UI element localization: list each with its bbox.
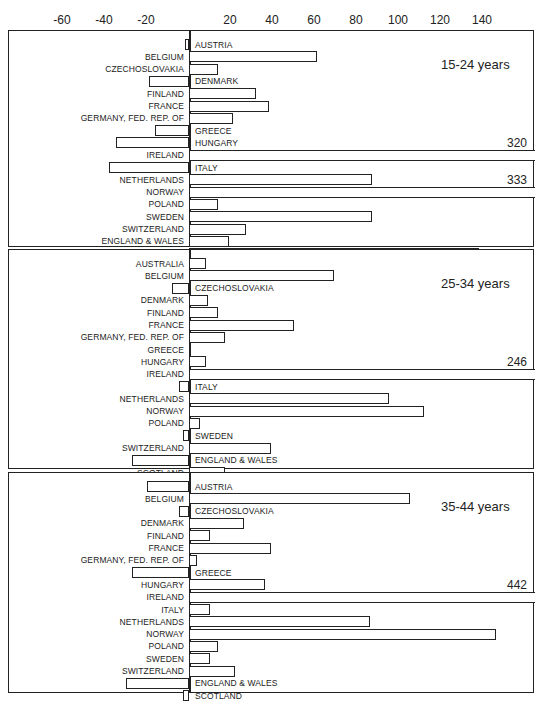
bar	[189, 369, 535, 380]
category-label: FINLAND	[147, 88, 184, 100]
x-tick-label: -20	[137, 13, 154, 27]
bar	[189, 211, 372, 222]
bar	[179, 381, 190, 392]
overflow-value-label: 333	[507, 173, 527, 187]
category-label: NORWAY	[146, 628, 184, 640]
bar	[189, 88, 256, 99]
bar	[179, 506, 190, 517]
category-label: CZECHOSLOVAKIA	[195, 505, 274, 517]
category-label: IRELAND	[146, 591, 184, 603]
category-label: AUSTRIA	[195, 481, 233, 493]
x-tick-label: 140	[472, 13, 492, 27]
panel-title: 15-24 years	[441, 57, 510, 72]
category-label: SWITZERLAND	[122, 442, 184, 454]
bar	[189, 604, 210, 615]
category-label: IRELAND	[146, 149, 184, 161]
bar	[189, 393, 389, 404]
bar	[116, 137, 190, 148]
bar	[147, 481, 189, 492]
category-label: ENGLAND & WALES	[102, 235, 184, 247]
category-label: SWEDEN	[146, 211, 184, 223]
category-label: HUNGARY	[195, 137, 238, 149]
bar	[185, 39, 189, 50]
bar	[189, 518, 244, 529]
bar	[155, 125, 189, 136]
bar	[189, 51, 317, 62]
x-tick-label: 100	[388, 13, 408, 27]
bar	[189, 418, 200, 429]
bar	[189, 406, 424, 417]
category-label: POLAND	[148, 198, 184, 210]
category-label: HUNGARY	[141, 356, 184, 368]
x-tick-label: -60	[53, 13, 70, 27]
category-label: GREECE	[148, 344, 185, 356]
bar	[189, 443, 271, 454]
bar	[189, 356, 206, 367]
bar	[189, 270, 334, 281]
bar	[189, 332, 225, 343]
overflow-value-label: 320	[507, 136, 527, 150]
bar	[189, 543, 271, 554]
bar	[189, 64, 218, 75]
bar	[132, 455, 189, 466]
x-tick-label: 80	[349, 13, 362, 27]
category-label: BELGIUM	[145, 493, 184, 505]
panel-15-24-years: 15-24 yearsAUSTRIABELGIUMCZECHOSLOVAKIAD…	[8, 30, 534, 247]
category-label: AUSTRIA	[195, 39, 233, 51]
bar	[172, 283, 189, 294]
category-label: DENMARK	[195, 75, 238, 87]
category-label: POLAND	[148, 417, 184, 429]
category-label: SWITZERLAND	[122, 665, 184, 677]
bar	[189, 666, 235, 677]
category-label: FINLAND	[147, 530, 184, 542]
x-tick-label: 20	[223, 13, 236, 27]
category-label: FINLAND	[147, 307, 184, 319]
category-label: SCOTLAND	[195, 690, 242, 701]
bar	[189, 150, 535, 161]
category-label: GERMANY, FED. REP. OF	[81, 331, 184, 343]
category-label: BELGIUM	[145, 270, 184, 282]
category-label: GERMANY, FED. REP. OF	[81, 112, 184, 124]
bar	[189, 653, 210, 664]
category-label: SWEDEN	[195, 430, 233, 442]
bar	[189, 236, 229, 247]
panel-title: 25-34 years	[441, 276, 510, 291]
bar	[189, 187, 535, 198]
x-tick-label: 60	[307, 13, 320, 27]
category-label: NETHERLANDS	[120, 616, 184, 628]
panel-title: 35-44 years	[441, 499, 510, 514]
bar	[189, 530, 210, 541]
bar	[149, 76, 189, 87]
bar	[189, 224, 246, 235]
category-label: SWITZERLAND	[122, 223, 184, 235]
bar	[189, 320, 294, 331]
bar	[189, 174, 372, 185]
category-label: AUSTRALIA	[136, 258, 184, 270]
bar	[183, 430, 189, 441]
category-label: ENGLAND & WALES	[195, 677, 277, 689]
bar	[109, 162, 189, 173]
overflow-value-label: 442	[507, 578, 527, 592]
bar	[189, 307, 218, 318]
category-label: HUNGARY	[141, 579, 184, 591]
category-label: ITALY	[195, 162, 218, 174]
overflow-value-label: 246	[507, 355, 527, 369]
bar	[189, 113, 233, 124]
category-label: FRANCE	[148, 319, 184, 331]
category-label: POLAND	[148, 640, 184, 652]
category-label: IRELAND	[146, 368, 184, 380]
category-label: GERMANY, FED. REP. OF	[81, 554, 184, 566]
category-label: NETHERLANDS	[120, 393, 184, 405]
bar	[189, 555, 197, 566]
bar	[189, 616, 370, 627]
bar	[126, 678, 189, 689]
bar	[189, 101, 269, 112]
category-label: DENMARK	[141, 517, 184, 529]
panel-35-44-years: 35-44 yearsAUSTRIABELGIUMCZECHOSLOVAKIAD…	[8, 472, 534, 693]
category-label: FRANCE	[148, 542, 184, 554]
bar	[189, 258, 206, 269]
x-tick-label: 40	[265, 13, 278, 27]
category-label: NORWAY	[146, 186, 184, 198]
bar	[189, 493, 410, 504]
bar	[183, 690, 189, 701]
